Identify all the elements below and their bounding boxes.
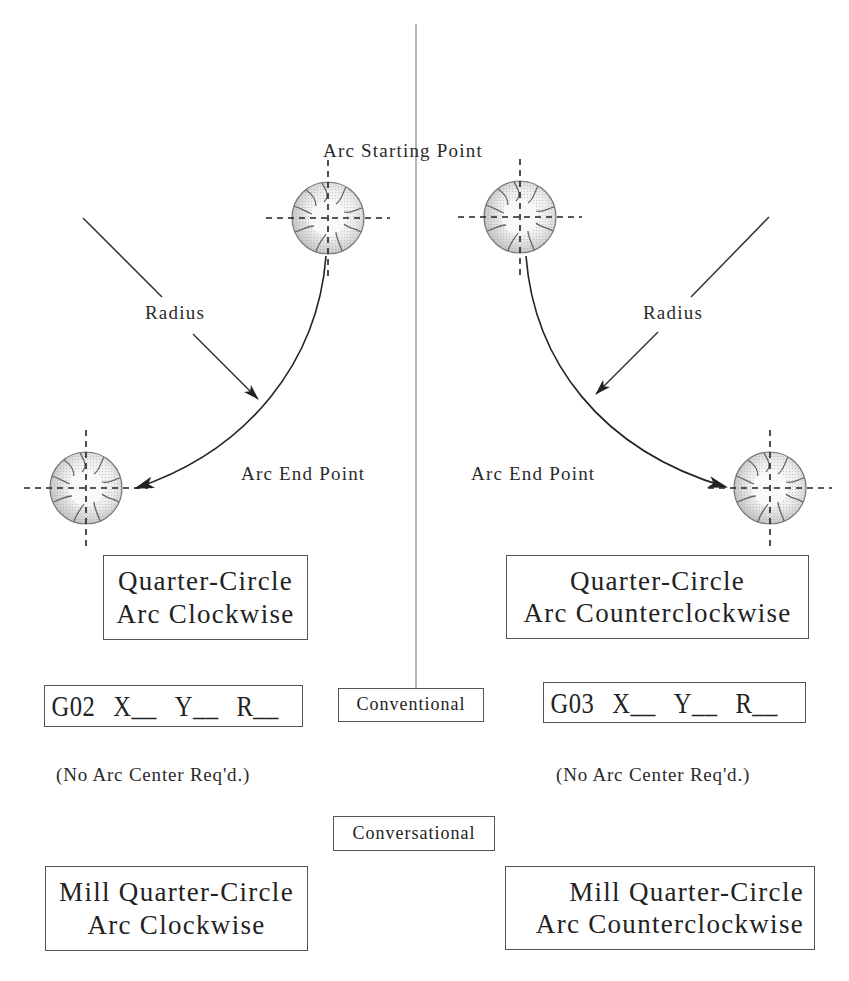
right-y-word: Y__	[674, 686, 718, 720]
right-arc-end-point-label: Arc End Point	[471, 463, 595, 485]
left-conversational-line1: Mill Quarter-Circle	[59, 876, 294, 908]
left-radius-line	[83, 218, 162, 297]
left-end-cutter-icon	[24, 430, 148, 546]
left-motion-box: Quarter-Circle Arc Clockwise	[103, 555, 308, 640]
left-gcode-text: G02 X__ Y__ R__	[45, 689, 279, 723]
conversational-label: Conversational	[353, 823, 476, 845]
right-radius-arrow	[596, 332, 658, 394]
left-gcode-box: G02 X__ Y__ R__	[44, 685, 303, 727]
left-motion-line2: Arc Clockwise	[116, 598, 294, 630]
left-radius-label: Radius	[145, 302, 205, 324]
left-radius-arrow	[193, 334, 258, 399]
right-end-cutter-icon	[708, 430, 832, 546]
right-x-word: X__	[612, 686, 656, 720]
right-conversational-box: Mill Quarter-Circle Arc Counterclockwise	[505, 866, 815, 950]
right-gcode: G03	[551, 686, 595, 720]
right-conversational-line1: Mill Quarter-Circle	[569, 876, 804, 908]
left-conversational-line2: Arc Clockwise	[87, 909, 265, 941]
right-start-cutter-icon	[458, 159, 582, 275]
conventional-box: Conventional	[338, 688, 484, 722]
left-y-word: Y__	[175, 689, 219, 723]
right-motion-box: Quarter-Circle Arc Counterclockwise	[506, 555, 809, 639]
left-no-arc-center-note: (No Arc Center Req'd.)	[56, 764, 250, 786]
right-motion-line2: Arc Counterclockwise	[523, 597, 791, 629]
right-motion-line1: Quarter-Circle	[570, 565, 745, 597]
right-gcode-box: G03 X__ Y__ R__	[543, 682, 806, 723]
left-x-word: X__	[113, 689, 157, 723]
right-gcode-text: G03 X__ Y__ R__	[544, 686, 778, 720]
left-gcode: G02	[52, 689, 96, 723]
right-radius-label: Radius	[643, 302, 703, 324]
right-no-arc-center-note: (No Arc Center Req'd.)	[556, 764, 750, 786]
left-r-word: R__	[236, 689, 278, 723]
left-arc-end-point-label: Arc End Point	[241, 463, 365, 485]
left-motion-line1: Quarter-Circle	[118, 565, 293, 597]
conventional-label: Conventional	[357, 694, 466, 716]
arc-starting-point-label: Arc Starting Point	[323, 140, 483, 162]
conversational-box: Conversational	[333, 816, 495, 851]
right-conversational-line2: Arc Counterclockwise	[536, 908, 804, 940]
right-radius-line	[691, 217, 769, 297]
right-r-word: R__	[735, 686, 777, 720]
right-counterclockwise-arc-arrow	[526, 256, 726, 487]
left-start-cutter-icon	[266, 160, 390, 276]
left-conversational-box: Mill Quarter-Circle Arc Clockwise	[45, 866, 308, 951]
